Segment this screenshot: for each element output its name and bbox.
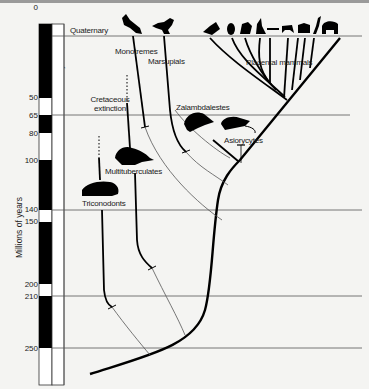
platypus-silhouette-icon <box>122 14 142 34</box>
zalambdalestes-label: Zalambdalestes <box>176 103 230 112</box>
time-bar <box>39 24 64 385</box>
placental-mammal-silhouettes-icon <box>203 16 338 35</box>
asiorycytes-silhouette-icon <box>221 117 255 133</box>
placental-branches <box>210 38 314 100</box>
marsupials-label: Marsupials <box>148 57 185 66</box>
triconodont-silhouette-icon <box>82 181 119 196</box>
multituberculates-label: Multituberculates <box>105 167 162 176</box>
cretaceous-extinction-label: Cretaceous extinction <box>80 95 140 113</box>
kangaroo-silhouette-icon <box>152 18 174 34</box>
monotremes-label: Monotremes <box>115 47 157 56</box>
triconodonts-label: Triconodonts <box>82 199 126 208</box>
multituberculate-silhouette-icon <box>115 147 154 165</box>
placental-mammals-label: Placental mammals <box>246 58 312 67</box>
asiorycytes-label: Asiorycytes <box>224 136 263 145</box>
